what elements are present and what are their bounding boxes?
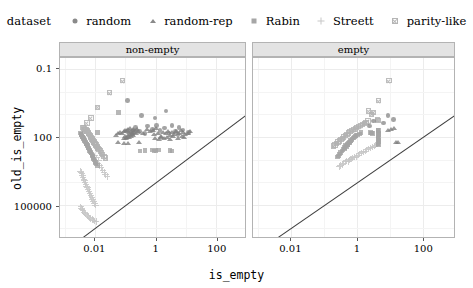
legend-key-icon [247,14,262,29]
legend-entry-streett[interactable]: Streett [314,14,374,29]
marker-triangle [115,140,121,144]
marker-square [82,138,86,142]
marker-triangle [129,131,135,135]
gridline-horizontal [253,160,454,161]
x-tick-label: 0.01 [83,243,105,254]
marker-square [345,142,349,146]
marker-triangle [140,131,146,135]
marker-square [82,138,86,142]
x-tick-label: 1 [354,243,360,254]
marker-circle [131,131,136,136]
marker-square [370,131,374,135]
marker-plus [80,207,86,213]
gridline-vertical [216,58,217,237]
marker-square-x [86,130,91,135]
y-tick-mark [56,68,59,69]
marker-plus [102,172,108,178]
marker-triangle [136,140,142,144]
gridline-horizontal [253,69,454,70]
marker-triangle [117,130,123,134]
x-tick-mark [290,238,291,241]
marker-triangle [126,130,132,134]
legend-entry-random-rep[interactable]: random-rep [145,14,233,29]
marker-square-x [351,127,356,132]
marker-square [90,152,94,156]
gridline-vertical [186,58,187,237]
gridline-vertical [95,58,96,237]
marker-plus [89,194,95,200]
marker-square [348,140,352,144]
marker-triangle [127,132,133,136]
marker-square [376,128,380,132]
marker-circle [164,109,169,114]
marker-square-x [86,131,91,136]
marker-square-x [346,130,351,135]
marker-triangle [171,132,177,136]
marker-square [78,131,82,135]
marker-square-x [99,150,104,155]
y-axis-title: old_is_empty [10,107,24,190]
marker-square-x [88,115,93,120]
marker-circle [367,124,372,129]
marker-circle [133,125,138,130]
marker-circle [158,128,163,133]
legend-key-icon [388,14,403,29]
y-tick-mark [56,206,59,207]
legend-key-icon [314,14,329,29]
marker-triangle [169,130,175,134]
marker-square [84,142,88,146]
legend-entries: randomrandom-repRabinStreettparity-like [67,14,466,29]
gridline-vertical [125,58,126,237]
marker-square [86,144,90,148]
marker-square-x [335,139,340,144]
legend-entry-rabin[interactable]: Rabin [247,14,300,29]
legend-entry-parity-like[interactable]: parity-like [388,14,467,29]
marker-plus [373,142,379,148]
marker-square [376,131,380,135]
marker-triangle [388,127,394,131]
marker-square [150,148,154,152]
marker-square [346,141,350,145]
marker-square [168,148,172,152]
x-tick-label: 100 [207,243,226,254]
marker-square [89,150,93,154]
marker-square [84,141,88,145]
marker-square [87,148,91,152]
marker-plus [84,212,90,218]
gridline-horizontal [60,160,245,161]
marker-square [376,140,380,144]
gridline-horizontal [253,92,454,93]
legend-title: dataset [7,14,51,28]
gridline-horizontal [60,69,245,70]
marker-circle [170,123,175,128]
x-tick-label: 100 [414,243,433,254]
marker-square [340,149,344,153]
marker-circle [391,117,396,122]
gridline-horizontal [60,205,245,206]
reference-line-identity [278,115,455,237]
chart-legend: dataset randomrandom-repRabinStreettpari… [0,12,473,30]
marker-square [368,130,372,134]
marker-plus [96,162,102,168]
marker-triangle [176,131,182,135]
marker-triangle [178,128,184,132]
y-tick-label: 100000 [0,200,52,211]
marker-square-x [331,143,336,148]
marker-circle [371,119,376,124]
y-tick-mark [56,137,59,138]
marker-square-x [375,118,380,123]
marker-plus [79,172,85,178]
marker-plus [79,171,85,177]
marker-plus [360,149,366,155]
marker-triangle [165,129,171,133]
marker-square [88,149,92,153]
legend-entry-random[interactable]: random [67,14,131,29]
marker-square-x [82,126,87,131]
legend-key-icon [145,14,160,29]
marker-square [345,143,349,147]
marker-square [89,151,93,155]
marker-plus [104,173,110,179]
marker-square-x [365,118,370,123]
legend-label: Streett [333,14,374,28]
marker-square [342,145,346,149]
